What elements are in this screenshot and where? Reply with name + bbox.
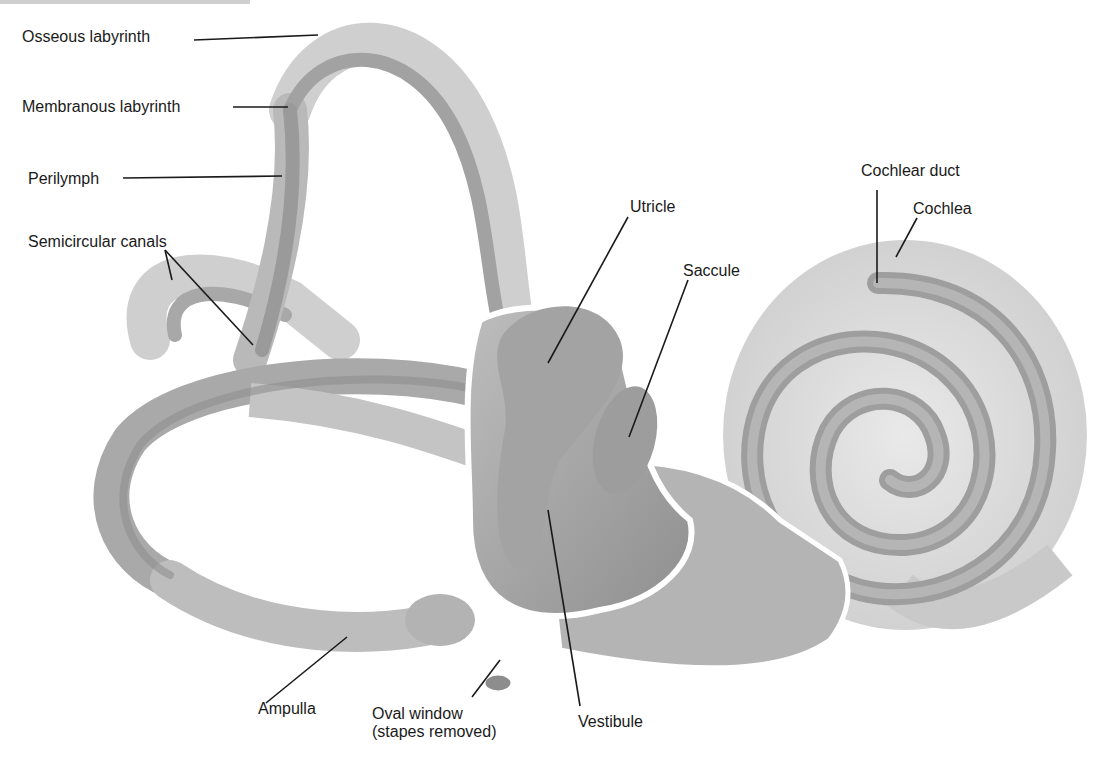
cropped-caption-trace bbox=[0, 0, 250, 4]
label-osseous-labyrinth: Osseous labyrinth bbox=[22, 28, 150, 46]
label-vestibule: Vestibule bbox=[578, 713, 643, 731]
label-ampulla: Ampulla bbox=[258, 700, 316, 718]
label-oval-window-line2: (stapes removed) bbox=[372, 723, 497, 741]
label-semicircular-canals: Semicircular canals bbox=[28, 233, 167, 251]
label-oval-window-line1: Oval window bbox=[372, 705, 497, 723]
label-oval-window: Oval window (stapes removed) bbox=[372, 705, 497, 741]
label-utricle: Utricle bbox=[630, 198, 675, 216]
label-saccule: Saccule bbox=[683, 262, 740, 280]
label-cochlea: Cochlea bbox=[913, 200, 972, 218]
label-cochlear-duct: Cochlear duct bbox=[861, 162, 960, 180]
label-membranous-labyrinth: Membranous labyrinth bbox=[22, 98, 180, 116]
ampulla-shape bbox=[405, 594, 475, 646]
label-perilymph: Perilymph bbox=[28, 170, 99, 188]
